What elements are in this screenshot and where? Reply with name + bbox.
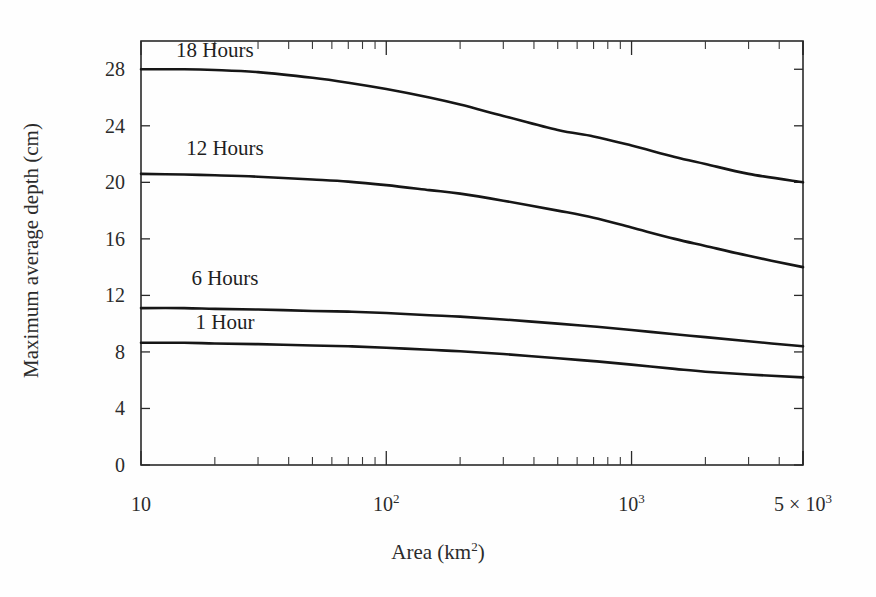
curve-label-1: 12 Hours — [186, 136, 264, 161]
curve-label-3: 1 Hour — [196, 310, 255, 335]
x-tick-label-base: 10 — [618, 493, 638, 515]
y-tick-label: 24 — [63, 114, 125, 137]
y-tick-label: 16 — [63, 227, 125, 250]
y-tick-label: 28 — [63, 58, 125, 81]
y-tick-label: 8 — [63, 340, 125, 363]
x-tick-label: 10 — [131, 493, 151, 516]
x-tick-label-base: 10 — [131, 493, 151, 515]
curve-label-2: 6 Hours — [191, 266, 258, 291]
series-curve-1 — [141, 174, 803, 267]
x-tick-label-exponent: 2 — [393, 491, 400, 506]
curve-label-0: 18 Hours — [176, 38, 254, 63]
y-tick-label: 12 — [63, 284, 125, 307]
x-tick-label-exponent: 3 — [638, 491, 645, 506]
y-tick-label: 0 — [63, 454, 125, 477]
plot-frame — [141, 41, 803, 465]
x-tick-label: 103 — [618, 493, 645, 516]
y-axis-title-wrap: Maximum average depth (cm) — [14, 0, 48, 500]
series-curve-0 — [141, 69, 803, 182]
chart-figure: 0481216202428 101021035 × 103 18 Hours12… — [0, 0, 876, 597]
x-axis-title-base: Area (km — [391, 540, 471, 564]
x-tick-label-base: 10 — [373, 493, 393, 515]
y-axis-title: Maximum average depth (cm) — [19, 123, 44, 378]
x-tick-label-exponent: 3 — [825, 491, 832, 506]
y-tick-label: 4 — [63, 397, 125, 420]
x-tick-label: 102 — [373, 493, 400, 516]
y-tick-label: 20 — [63, 171, 125, 194]
series-curve-3 — [141, 343, 803, 378]
x-axis-title-tail: ) — [478, 540, 485, 564]
x-tick-label: 5 × 103 — [774, 493, 832, 516]
x-tick-label-base: 5 × 10 — [774, 493, 825, 515]
x-axis-title: Area (km2) — [0, 540, 876, 565]
x-axis-ticks-bottom — [141, 451, 803, 465]
